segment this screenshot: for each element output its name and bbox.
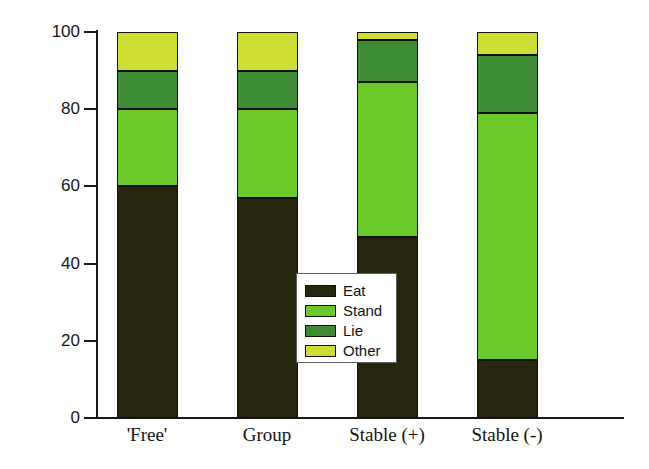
y-tick-80: [84, 108, 96, 110]
legend-item-lie: Lie: [305, 321, 396, 340]
legend-swatch-stand: [305, 305, 336, 317]
legend-label-lie: Lie: [343, 323, 363, 338]
bar-segment-lie: [237, 71, 298, 110]
legend-swatch-lie: [305, 325, 336, 337]
y-tick-60: [84, 185, 96, 187]
bar-segment-other: [237, 32, 298, 71]
bar-segment-other: [477, 32, 538, 55]
bar-segment-lie: [357, 40, 418, 82]
bar-segment-eat: [477, 360, 538, 418]
bar-free: [117, 32, 178, 418]
legend-item-stand: Stand: [305, 301, 396, 320]
y-tick-20: [84, 340, 96, 342]
y-tick-40: [84, 263, 96, 265]
y-tick-label-80: 80: [34, 100, 80, 117]
bar-segment-stand: [357, 82, 418, 236]
legend-swatch-eat: [305, 285, 336, 297]
bar-segment-eat: [117, 186, 178, 418]
y-tick-label-40: 40: [34, 255, 80, 272]
legend-item-eat: Eat: [305, 281, 396, 300]
bar-segment-eat: [237, 198, 298, 418]
bar-segment-lie: [117, 71, 178, 110]
legend-item-other: Other: [305, 341, 396, 360]
legend-label-stand: Stand: [343, 303, 382, 318]
legend-swatch-other: [305, 345, 336, 357]
y-tick-label-60: 60: [34, 177, 80, 194]
y-tick-0: [84, 417, 96, 419]
y-axis-line: [96, 30, 98, 419]
y-tick-label-20: 20: [34, 332, 80, 349]
legend-label-other: Other: [343, 343, 381, 358]
bar-segment-other: [357, 32, 418, 40]
y-tick-100: [84, 31, 96, 33]
bar-stable: [477, 32, 538, 418]
bar-segment-stand: [117, 109, 178, 186]
x-tick-label-3: Stable (-): [432, 424, 582, 446]
chart-legend: Eat Stand Lie Other: [296, 273, 397, 363]
bar-segment-other: [117, 32, 178, 71]
legend-label-eat: Eat: [343, 283, 366, 298]
bar-segment-stand: [237, 109, 298, 198]
bar-segment-lie: [477, 55, 538, 113]
bar-group: [237, 32, 298, 418]
bar-segment-stand: [477, 113, 538, 360]
stacked-bar-chart: 020406080100 'Free'GroupStable (+)Stable…: [0, 0, 649, 469]
y-tick-label-100: 100: [34, 23, 80, 40]
